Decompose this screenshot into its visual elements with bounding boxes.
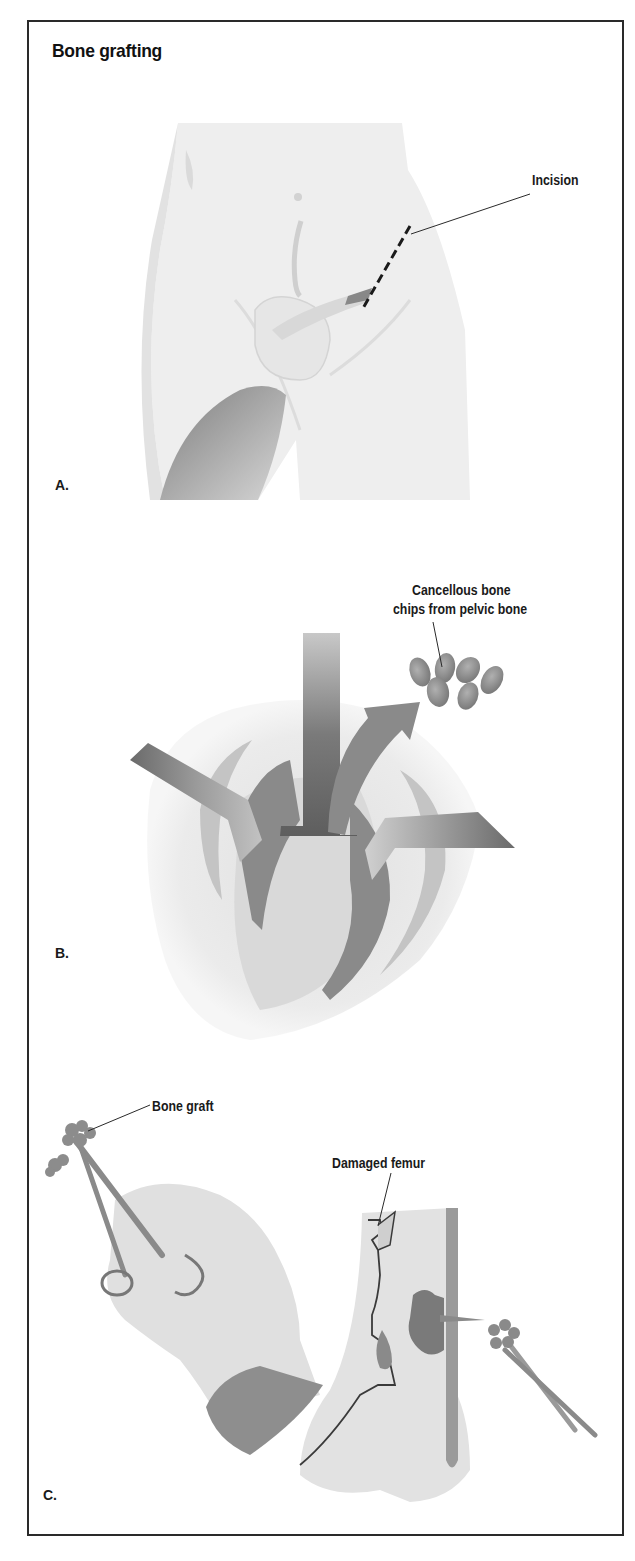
- panel-letter-c: C.: [43, 1487, 57, 1503]
- bone-graft-callout-line: [88, 1105, 150, 1131]
- bone-graft-on-forceps: [488, 1319, 520, 1349]
- callout-incision: Incision: [532, 172, 579, 189]
- femur-cortex: [446, 1208, 458, 1468]
- callout-cancellous-line1: Cancellous bone: [412, 582, 511, 599]
- forceps-c-arm-2: [505, 1350, 595, 1435]
- callout-damaged-femur: Damaged femur: [332, 1155, 425, 1172]
- callout-bone-graft: Bone graft: [152, 1098, 214, 1115]
- callout-cancellous-line2: chips from pelvic bone: [393, 601, 527, 618]
- panel-c-illustration: [45, 1105, 595, 1502]
- illustration-canvas: [0, 0, 635, 1561]
- panel-b-illustration: [130, 622, 515, 1040]
- panel-letter-a: A.: [55, 477, 69, 493]
- navel: [294, 193, 302, 201]
- bone-chips: [405, 651, 508, 712]
- panel-letter-b: B.: [55, 945, 69, 961]
- bone-spatula: [440, 1315, 485, 1322]
- panel-a-illustration: [141, 123, 530, 500]
